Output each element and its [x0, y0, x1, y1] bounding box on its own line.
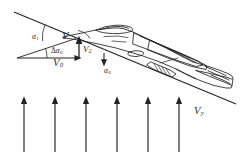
gust-arrow-group — [24, 100, 179, 152]
label-delta-alpha-0: Δα0 — [51, 47, 62, 56]
label-alpha-0: α0 — [104, 67, 111, 76]
arc-alpha1 — [42, 25, 45, 42]
gust-velocity-diagram: α1 V Δα0 V0 V2 α0 Vy — [0, 0, 243, 161]
label-v0: V0 — [53, 58, 63, 69]
arc-delta-alpha0 — [46, 49, 47, 58]
label-alpha-1: α1 — [32, 33, 39, 42]
aircraft-outline — [63, 25, 233, 88]
label-v: V — [62, 31, 68, 42]
label-vy-gust: Vy — [194, 106, 204, 117]
diagram-canvas — [0, 0, 243, 161]
label-v2-nose: V2 — [83, 45, 92, 55]
